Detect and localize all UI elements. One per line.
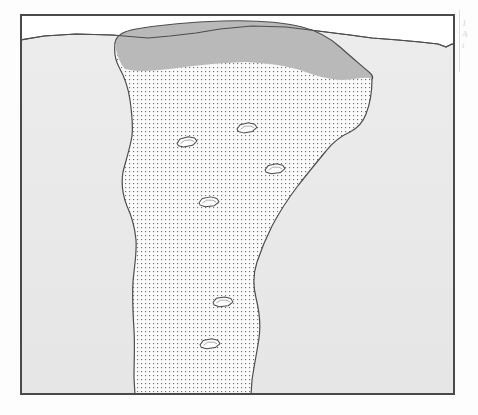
margin-text-bleed: 1 A t	[462, 18, 478, 64]
figure-frame	[20, 14, 455, 395]
margin-rule	[459, 10, 460, 72]
cross-section-drawing	[20, 14, 455, 395]
margin-bleed-line-1: 1	[462, 18, 478, 29]
margin-bleed-line-2: A	[462, 29, 478, 40]
margin-bleed-line-3: t	[462, 40, 478, 51]
page-canvas: 1 A t	[0, 0, 478, 415]
